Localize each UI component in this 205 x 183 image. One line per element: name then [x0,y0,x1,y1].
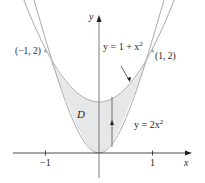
upper-curve-exponent: 2 [139,40,143,48]
lower-curve-equation: y = 2x [134,119,160,130]
point-1-2 [151,50,154,53]
y-axis-label: y [88,11,94,22]
x-axis-label: x [183,157,189,168]
lower-curve-label: y = 2x2 [134,118,164,130]
point-label-minus1-2: (−1, 2) [15,46,41,57]
diagram: y x −1 1 (−1, 2) (1, 2) y = 1 + x2 y = 2… [0,0,205,183]
point-label-1-2: (1, 2) [155,51,176,62]
x-tick-label-1: 1 [150,157,155,168]
upper-curve-label: y = 1 + x2 [103,40,143,52]
region-label: D [76,108,85,120]
y-axis-arrow-icon [97,15,102,22]
point-minus1-2 [44,50,47,53]
upper-curve-equation: y = 1 + x [103,41,139,52]
x-axis-arrow-icon [185,151,192,156]
lower-curve-exponent: 2 [160,118,164,126]
x-tick-label-minus-1: −1 [40,157,51,168]
